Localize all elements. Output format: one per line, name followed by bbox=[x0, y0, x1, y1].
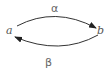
arrow-b-to-a-icon bbox=[15, 35, 98, 46]
node-b: b bbox=[97, 24, 104, 37]
edge-label-beta: β bbox=[45, 56, 52, 69]
arrow-a-to-b-icon bbox=[17, 16, 96, 28]
node-a: a bbox=[6, 24, 13, 37]
edge-label-alpha: α bbox=[51, 2, 58, 15]
edge-b-to-a: β bbox=[15, 35, 98, 69]
diagram-canvas: α β a b bbox=[0, 0, 111, 70]
edge-a-to-b: α bbox=[17, 2, 96, 28]
